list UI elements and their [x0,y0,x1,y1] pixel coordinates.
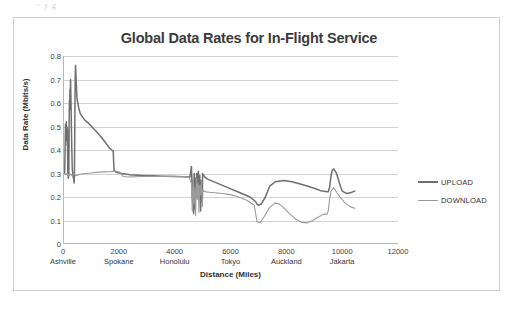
y-axis-tick-label: 0.8 [35,52,61,61]
legend-label-upload: UPLOAD [441,178,473,187]
y-axis-title: Data Rate (Mbits/s) [21,60,30,170]
figure-frame: Global Data Rates for In-Flight Service … [13,17,500,291]
x-axis-tick-value: 12000 [368,247,428,257]
x-axis-tick-value: 8000 [256,247,316,257]
y-axis-tick-label: 0.3 [35,169,61,178]
x-axis-tick-city: Ashville [33,257,93,267]
plot-area [63,56,398,244]
x-axis-tick-value: 4000 [145,247,205,257]
x-axis-tick-value: 6000 [201,247,261,257]
x-axis-tick-value: 10000 [312,247,372,257]
x-axis-title: Distance (Miles) [63,270,398,279]
series-line-upload [65,65,355,213]
x-axis-tick-group: 10000Jakarta [312,247,372,267]
series-line-download [65,171,355,223]
scan-artifact-text: ~ y g [36,0,57,10]
legend-item-download: DOWNLOAD [418,191,510,209]
x-axis-tick-city: Spokane [89,257,149,267]
legend-swatch-upload-icon [418,181,438,183]
y-axis-tick-label: 0.2 [35,193,61,202]
legend-item-upload: UPLOAD [418,173,510,191]
legend-label-download: DOWNLOAD [441,196,487,205]
chart-title: Global Data Rates for In-Flight Service [74,30,424,46]
y-axis-tick-label: 0.7 [35,75,61,84]
x-axis-tick-group: 8000Auckland [256,247,316,267]
legend-swatch-download-icon [418,200,438,201]
x-axis-tick-group: 4000Honolulu [145,247,205,267]
chart-legend: UPLOAD DOWNLOAD [418,173,510,209]
y-axis-tick-label: 0.1 [35,216,61,225]
y-axis-tick-label: 0.5 [35,122,61,131]
y-axis-tick-label: 0.6 [35,99,61,108]
series-lines [63,56,398,244]
x-axis-tick-city: Tokyo [201,257,261,267]
x-axis-tick-group: 12000 [368,247,428,257]
x-axis-tick-group: 2000Spokane [89,247,149,267]
x-axis-tick-value: 0 [33,247,93,257]
x-axis-tick-group: 6000Tokyo [201,247,261,267]
y-axis-tick-label: 0.4 [35,146,61,155]
x-axis-tick-value: 2000 [89,247,149,257]
x-axis-tick-city: Jakarta [312,257,372,267]
x-axis-tick-group: 0Ashville [33,247,93,267]
x-axis-tick-city: Auckland [256,257,316,267]
y-axis-tick-labels: 00.10.20.30.40.50.60.70.8 [33,56,61,244]
x-axis-tick-city: Honolulu [145,257,205,267]
